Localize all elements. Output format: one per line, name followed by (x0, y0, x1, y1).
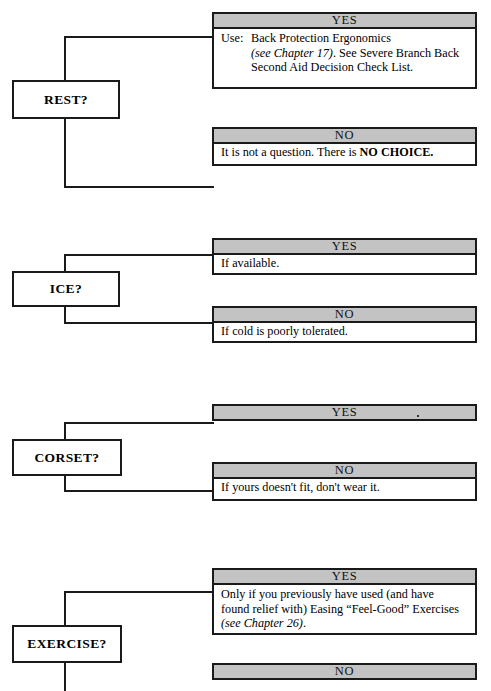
answer-body-rest-no: It is not a question. There is NO CHOICE… (212, 144, 477, 166)
answer-panel-ice-yes: YES If available. (212, 238, 477, 275)
answer-header-rest-no: NO (212, 127, 477, 144)
answer-panel-corset-yes: YES (212, 404, 477, 421)
answer-body-corset-no: If yours doesn't fit, don't wear it. (212, 479, 477, 501)
connector-no-rest (64, 186, 214, 188)
answer-header-corset-yes: YES (212, 404, 477, 421)
exercise-yes-line-1: Only if you previously have used (and ha… (221, 587, 434, 601)
answer-header-ice-no: NO (212, 306, 477, 323)
answer-panel-rest-no: NO It is not a question. There is NO CHO… (212, 127, 477, 166)
connector-no-corset (64, 490, 214, 492)
answer-panel-corset-no: NO If yours doesn't fit, don't wear it. (212, 462, 477, 501)
answer-body-ice-yes: If available. (212, 255, 477, 275)
question-box-corset[interactable]: CORSET? (12, 439, 122, 476)
connector-no-ice (64, 322, 214, 324)
answer-body-ice-no: If cold is poorly tolerated. (212, 323, 477, 343)
answer-header-rest-yes: YES (212, 12, 477, 29)
rest-no-text: It is not a question. There is (221, 145, 360, 159)
answer-panel-exercise-yes: YES Only if you previously have used (an… (212, 568, 477, 635)
answer-body-exercise-yes: Only if you previously have used (and ha… (212, 585, 477, 635)
answer-header-corset-yes-label: YES (332, 405, 357, 419)
exercise-yes-trailing: . (303, 616, 306, 630)
connector-yes-ice (64, 254, 214, 256)
rest-yes-line-1: Back Protection Ergonomics (251, 31, 391, 45)
question-label-exercise: EXERCISE? (27, 637, 106, 651)
rest-no-text-emphasis: NO CHOICE. (360, 145, 434, 159)
connector-yes-exercise (64, 591, 214, 593)
rest-yes-line-2-rest: . See Severe Branch Back (333, 46, 459, 60)
answer-header-exercise-no: NO (212, 663, 477, 680)
answer-panel-ice-no: NO If cold is poorly tolerated. (212, 306, 477, 343)
answer-header-exercise-yes: YES (212, 568, 477, 585)
answer-header-ice-yes: YES (212, 238, 477, 255)
rest-yes-line-3: Second Aid Decision Check List. (251, 60, 413, 74)
question-label-rest: REST? (44, 93, 88, 107)
connector-yes-corset (64, 422, 214, 424)
exercise-yes-chapter-ref: (see Chapter 26) (221, 616, 303, 630)
stray-dot-mark (417, 415, 419, 417)
use-label-rest-yes: Use: (221, 31, 251, 46)
rest-yes-chapter-ref: (see Chapter 17) (251, 46, 333, 60)
answer-panel-exercise-no: NO (212, 663, 477, 680)
question-box-rest[interactable]: REST? (12, 80, 120, 119)
question-box-exercise[interactable]: EXERCISE? (12, 625, 122, 663)
answer-panel-rest-yes: YES Use: Back Protection Ergonomics (see… (212, 12, 477, 89)
question-label-corset: CORSET? (34, 451, 99, 465)
answer-body-rest-yes: Use: Back Protection Ergonomics (see Cha… (212, 29, 477, 89)
exercise-yes-line-2: found relief with) Easing “Feel-Good” Ex… (221, 602, 459, 616)
answer-header-corset-no: NO (212, 462, 477, 479)
question-box-ice[interactable]: ICE? (12, 271, 120, 307)
decision-flowchart: REST? YES Use: Back Protection Ergonomic… (0, 0, 491, 691)
connector-yes-rest (64, 36, 214, 38)
question-label-ice: ICE? (50, 282, 82, 296)
